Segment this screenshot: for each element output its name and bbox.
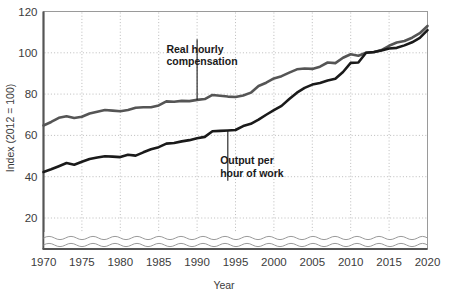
y-tick-label: 80	[25, 88, 38, 100]
annotation-label: Real hourly	[166, 43, 223, 55]
annotation-label: hour of work	[220, 167, 284, 179]
x-tick-label: 1985	[146, 256, 172, 268]
annotation-label: compensation	[166, 55, 237, 67]
y-tick-label: 40	[25, 171, 38, 183]
x-tick-label: 2010	[338, 256, 364, 268]
x-tick-label: 2015	[376, 256, 402, 268]
y-tick-label: 20	[25, 212, 38, 224]
x-tick-label: 2000	[261, 256, 287, 268]
x-tick-label: 2005	[300, 256, 326, 268]
x-axis-title: Year	[213, 279, 235, 291]
line-chart: 1970197519801985199019952000200520102015…	[0, 0, 449, 297]
x-axis-tick-labels: 1970197519801985199019952000200520102015…	[31, 256, 441, 268]
x-tick-label: 1990	[184, 256, 210, 268]
x-tick-label: 1975	[69, 256, 95, 268]
axis-break-squiggle	[44, 232, 428, 248]
chart-background	[0, 0, 449, 297]
x-tick-label: 1970	[31, 256, 57, 268]
x-tick-label: 1995	[223, 256, 249, 268]
chart-container: 1970197519801985199019952000200520102015…	[0, 0, 449, 297]
y-tick-label: 120	[18, 6, 37, 18]
y-axis-title: Index (2012 = 100)	[4, 84, 16, 172]
x-tick-label: 1980	[108, 256, 134, 268]
y-tick-label: 100	[18, 47, 37, 59]
y-tick-label: 60	[25, 129, 38, 141]
x-tick-label: 2020	[415, 256, 441, 268]
